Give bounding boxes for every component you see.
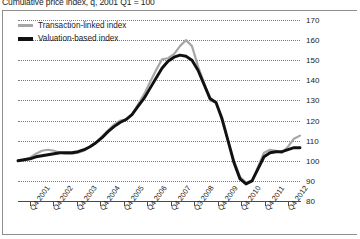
- legend-swatch-icon-transaction-linked: [18, 24, 33, 27]
- chart-figure: Cumulative price index, q, 2001 Q1 = 100…: [0, 0, 360, 239]
- y-tick-label-90: 90: [306, 176, 315, 185]
- y-tick-label-150: 150: [306, 56, 319, 65]
- y-tick-label-100: 100: [306, 156, 319, 165]
- legend-label-transaction-linked: Transaction-linked index: [38, 21, 126, 30]
- y-tick-label-170: 170: [306, 16, 319, 25]
- series-line-transaction-linked: [18, 40, 300, 183]
- chart-title: Cumulative price index, q, 2001 Q1 = 100: [2, 0, 155, 7]
- chart-legend: Transaction-linked index Valuation-based…: [18, 19, 126, 45]
- y-tick-label-80: 80: [306, 197, 315, 206]
- y-tick-label-160: 160: [306, 36, 319, 45]
- bottom-divider: [2, 234, 357, 235]
- legend-swatch-icon-valuation-based: [18, 37, 33, 41]
- legend-label-valuation-based: Valuation-based index: [38, 34, 118, 43]
- series-plot: [18, 20, 300, 201]
- y-tick-label-140: 140: [306, 76, 319, 85]
- y-tick-label-110: 110: [306, 136, 319, 145]
- y-tick-label-120: 120: [306, 116, 319, 125]
- legend-item-transaction-linked: Transaction-linked index: [18, 19, 126, 32]
- legend-item-valuation-based: Valuation-based index: [18, 32, 126, 45]
- y-tick-label-130: 130: [306, 96, 319, 105]
- series-line-valuation-based: [18, 55, 300, 184]
